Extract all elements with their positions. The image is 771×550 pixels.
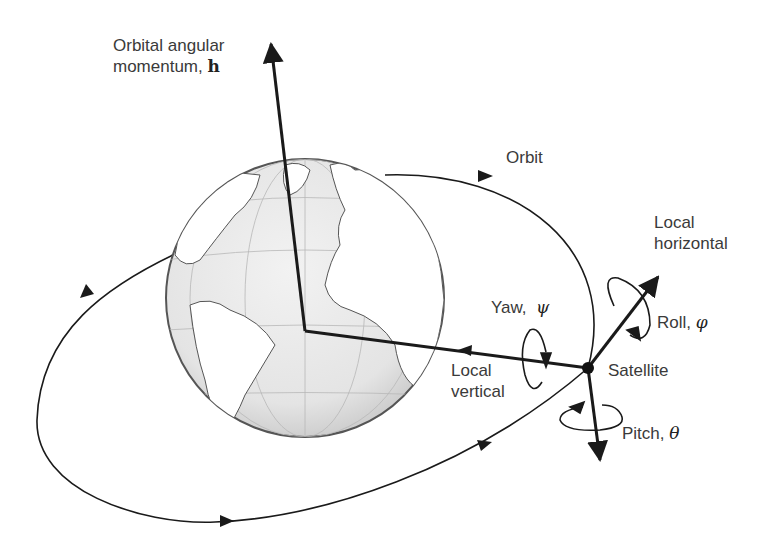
satellite-label: Satellite: [608, 360, 668, 381]
angular-momentum-label: Orbital angular momentum, h: [113, 35, 225, 77]
orbit-label: Orbit: [506, 147, 543, 168]
h-symbol: h: [207, 56, 219, 76]
earth-globe: [166, 159, 444, 437]
pitch-label: Pitch, θ: [622, 423, 680, 444]
pitch-rotation-icon: [560, 402, 622, 430]
theta-symbol: θ: [669, 423, 679, 443]
satellite-dot: [582, 362, 594, 374]
local-vertical-arrow: [458, 345, 472, 356]
yaw-label: Yaw, ψ: [491, 297, 549, 318]
roll-rotation-icon: [608, 278, 650, 340]
phi-symbol: φ: [696, 312, 708, 332]
pitch-axis: [588, 368, 600, 460]
attitude-diagram: [0, 0, 771, 550]
local-horizontal-label: Local horizontal: [654, 212, 728, 254]
psi-symbol: ψ: [536, 297, 549, 317]
local-vertical-label: Local vertical: [451, 360, 505, 402]
roll-label: Roll, φ: [657, 312, 708, 333]
local-horizontal-axis: [588, 277, 658, 368]
